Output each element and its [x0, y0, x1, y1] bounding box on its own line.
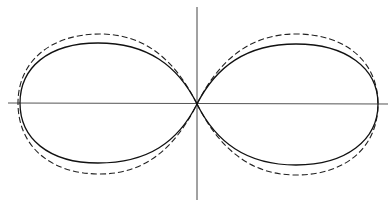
- figure-eight-diagram: [0, 0, 390, 207]
- dashed-left-lobe: [18, 34, 197, 174]
- diagram-canvas: [0, 0, 390, 207]
- dashed-right-lobe: [197, 34, 378, 175]
- solid-right-lobe: [197, 44, 378, 165]
